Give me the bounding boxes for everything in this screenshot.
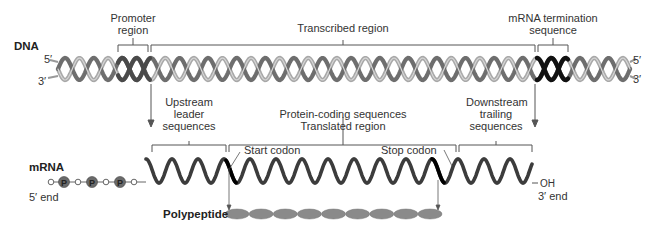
promoter-label-line1: Promoter [103,12,163,24]
start-codon-leader [230,152,240,168]
amino-acid-bead [346,209,370,219]
coding-line2: Translated region [273,120,413,132]
promoter-label: Promoter region [103,12,163,36]
upstream-bracket [152,141,226,152]
termination-label-line1: mRNA termination [503,12,603,24]
hydroxyl-node [48,179,54,185]
coding-label: Protein-coding sequences Translated regi… [273,108,413,132]
dna-label: DNA [14,40,39,52]
mrna-label: mRNA [29,161,64,173]
five-prime-cap-chain: PPP [48,177,146,188]
amino-acid-bead [322,209,346,219]
dna-5prime-right: 5′ [633,54,641,66]
promoter-label-line2: region [103,24,163,36]
upstream-line2: leader [159,108,219,120]
dna-3prime-left: 3′ [38,75,46,87]
downstream-line1: Downstream [466,96,526,108]
start-codon-label: Start codon [244,144,300,156]
amino-acid-bead [249,209,273,219]
svg-text:P: P [117,178,123,188]
upstream-line1: Upstream [159,96,219,108]
coding-line1: Protein-coding sequences [273,108,413,120]
promoter-bracket [118,38,148,52]
svg-text:P: P [61,178,67,188]
amino-acid-bead [297,209,321,219]
polypeptide-chain [225,209,442,219]
downstream-line3: sequences [466,120,526,132]
termination-label-line2: sequence [503,24,603,36]
dna-region-brackets [118,38,568,52]
amino-acid-bead [225,209,249,219]
polypeptide-label: Polypeptide [163,208,228,220]
stop-codon-leader [444,150,452,166]
upstream-label: Upstream leader sequences [159,96,219,132]
amino-acid-bead [273,209,297,219]
dna-double-helix [48,58,636,80]
transcribed-region-label: Transcribed region [283,22,403,34]
stop-codon-label: Stop codon [381,144,437,156]
dna-5prime-left: 5′ [44,53,52,65]
five-prime-end-label: 5′ end [29,191,59,203]
downstream-bracket [459,141,532,152]
hydroxyl-node [103,179,109,185]
dna-3prime-right: 3′ [633,73,641,85]
svg-text:P: P [89,178,95,188]
mrna-strand [146,159,532,183]
amino-acid-bead [370,209,394,219]
amino-acid-bead [418,209,442,219]
downstream-label: Downstream trailing sequences [466,96,526,132]
three-prime-end-label: 3′ end [538,190,568,202]
termination-label: mRNA termination sequence [503,12,603,36]
termination-bracket [538,38,568,52]
hydroxyl-node [75,179,81,185]
amino-acid-bead [394,209,418,219]
downstream-line2: trailing [466,108,526,120]
upstream-line3: sequences [159,120,219,132]
transcribed-bracket [151,40,535,52]
hydroxyl-node [131,179,137,185]
oh-label: OH [540,178,555,190]
